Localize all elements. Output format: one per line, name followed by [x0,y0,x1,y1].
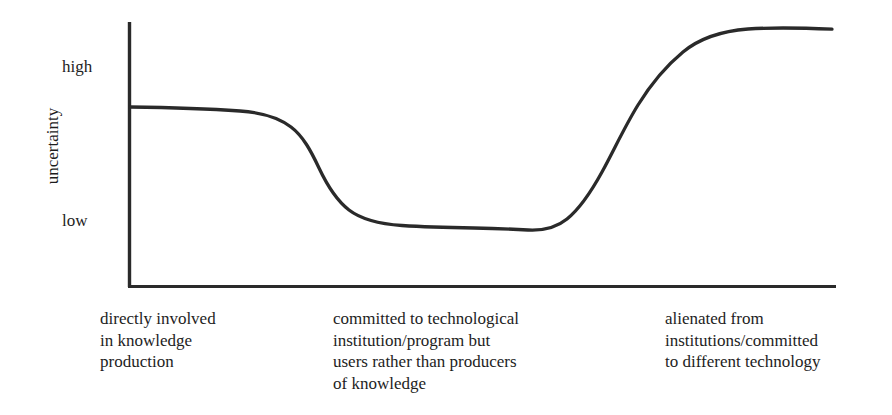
caption-line: alienated from [665,308,890,330]
caption-line: users rather than producers [333,351,653,373]
y-axis-title: uncertainty [0,90,130,210]
caption-line: committed to technological [333,308,653,330]
caption-line: institutions/committed [665,330,890,352]
caption-line: to different technology [665,351,890,373]
chart-figure: high low uncertainty directly involved i… [0,0,892,415]
y-axis-tick-low: low [62,211,88,231]
caption-line: directly involved [100,308,325,330]
y-axis-tick-high: high [62,57,92,77]
x-category-caption-middle: committed to technological institution/p… [333,308,653,394]
caption-line: in knowledge [100,330,325,352]
x-category-caption-right: alienated from institutions/committed to… [665,308,890,373]
uncertainty-curve [130,28,832,230]
y-axis-title-text: uncertainty [43,81,63,211]
caption-line: institution/program but [333,330,653,352]
caption-line: production [100,351,325,373]
x-category-caption-left: directly involved in knowledge productio… [100,308,325,373]
caption-line: of knowledge [333,373,653,395]
